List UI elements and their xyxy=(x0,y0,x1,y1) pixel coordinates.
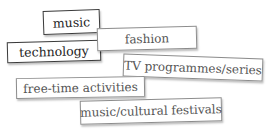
card-technology: technology xyxy=(7,40,102,63)
card-label: fashion xyxy=(125,31,170,46)
card-label: music xyxy=(53,14,91,30)
card-label: music/cultural festivals xyxy=(80,102,222,120)
card-free-time-activities: free-time activities xyxy=(16,76,145,99)
card-fashion: fashion xyxy=(97,26,198,52)
card-label: TV programmes/series xyxy=(124,58,262,77)
card-label: technology xyxy=(19,43,89,60)
card-label: free-time activities xyxy=(23,80,138,96)
word-card-collage: music fashion technology TV programmes/s… xyxy=(0,0,275,133)
card-music-cultural-festivals: music/cultural festivals xyxy=(80,97,223,125)
card-music: music xyxy=(43,9,101,35)
